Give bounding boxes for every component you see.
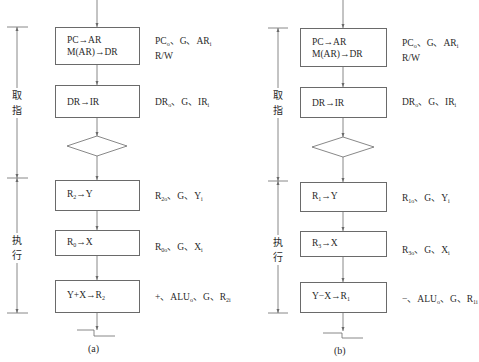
micro-op: M(AR)→DR: [67, 46, 139, 58]
control-signals: −、ALUo、G、R1i: [402, 293, 478, 308]
step-box-alu-op: Y−X→R1: [300, 282, 387, 313]
flowchart-panel-a: 取指 执行 PC→AR M(AR)→DR PCo、G、ARi R/W DR→IR…: [0, 0, 240, 362]
micro-op: R2→Y: [67, 188, 139, 203]
step-box-load-y: R2→Y: [55, 180, 140, 211]
step-box-load-x: R3→X: [300, 231, 387, 257]
micro-op: PC→AR: [312, 36, 386, 48]
micro-op: PC→AR: [67, 34, 139, 46]
step-box-load-y: R1→Y: [300, 182, 387, 212]
micro-op: R0→X: [67, 236, 139, 251]
control-signals: PCo、G、ARi R/W: [402, 37, 458, 64]
step-box-load-x: R0→X: [55, 230, 140, 256]
control-signals: R1o、G、Yi: [402, 192, 450, 207]
flowchart-panel-b: 取指 执行 PC→AR M(AR)→DR PCo、G、ARi R/W DR→IR…: [246, 0, 479, 362]
control-signals: DRo、G、IRi: [155, 96, 209, 111]
control-signals: R2o、G、Yi: [155, 190, 203, 205]
step-box-fetch-address: PC→AR M(AR)→DR: [300, 28, 387, 67]
phase-label-fetch: 取指: [271, 88, 285, 118]
micro-op: R1→Y: [312, 190, 386, 205]
control-signals: DRo、G、IRi: [402, 96, 456, 111]
micro-op: R3→X: [312, 237, 386, 252]
micro-op: M(AR)→DR: [312, 48, 386, 60]
micro-op: Y+X→R2: [67, 289, 139, 304]
phase-label-execute: 执行: [271, 235, 285, 265]
control-signals: +、ALUo、G、R2i: [155, 291, 231, 306]
step-box-fetch-address: PC→AR M(AR)→DR: [55, 27, 140, 65]
step-box-load-ir: DR→IR: [300, 87, 387, 118]
control-signals: R3o、G、Xi: [402, 244, 450, 259]
micro-op: Y−X→R1: [312, 290, 386, 305]
control-signals: PCo、G、ARi R/W: [155, 35, 211, 62]
micro-op: DR→IR: [67, 96, 139, 108]
phase-label-execute: 执行: [10, 233, 24, 263]
panel-caption: (a): [88, 343, 99, 354]
phase-label-fetch: 取指: [10, 88, 24, 118]
step-box-load-ir: DR→IR: [55, 85, 140, 118]
step-box-alu-op: Y+X→R2: [55, 280, 140, 313]
control-signals: R0o、G、Xi: [155, 241, 203, 256]
micro-op: DR→IR: [312, 97, 386, 109]
panel-caption: (b): [334, 345, 346, 356]
